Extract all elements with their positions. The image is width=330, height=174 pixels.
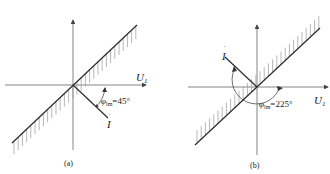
- u1-label: U1: [136, 71, 147, 85]
- figure-b: U1 I · φlm=225° (b): [188, 16, 328, 170]
- caption-b: (b): [250, 161, 260, 170]
- hatch-region: [14, 26, 136, 154]
- current-dot: ·: [109, 111, 111, 119]
- figure-a: U1 I · φlm=45° (a): [5, 20, 147, 168]
- current-label: I: [221, 50, 227, 62]
- boundary-line: [195, 28, 320, 145]
- boundary-line: [12, 25, 137, 143]
- current-phasor: [225, 57, 257, 87]
- hatch-region: [197, 16, 319, 143]
- angle-label: φlm=45°: [101, 96, 130, 107]
- phasor-diagram: U1 I · φlm=45° (a) U1 I · φlm=225° (b): [0, 0, 330, 174]
- current-dot: ·: [224, 43, 226, 51]
- angle-label: φlm=225°: [259, 99, 293, 110]
- u1-label: U1: [314, 94, 325, 108]
- caption-a: (a): [64, 159, 73, 168]
- current-label: I: [106, 118, 112, 130]
